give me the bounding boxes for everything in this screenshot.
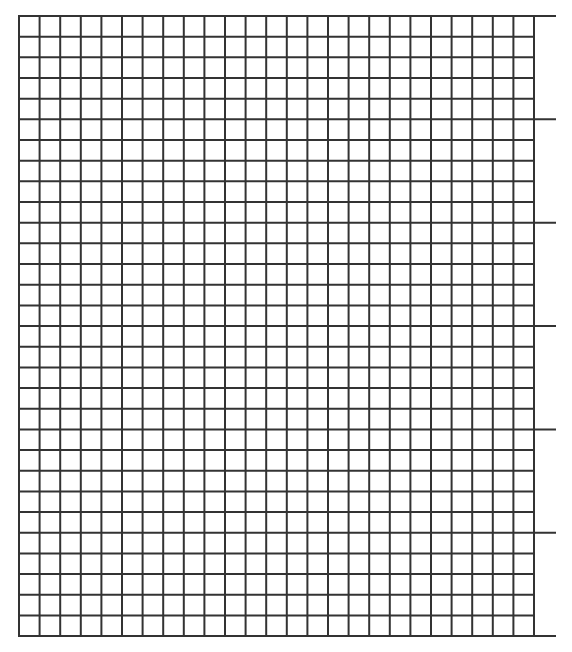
graph-paper-grid (0, 0, 572, 652)
